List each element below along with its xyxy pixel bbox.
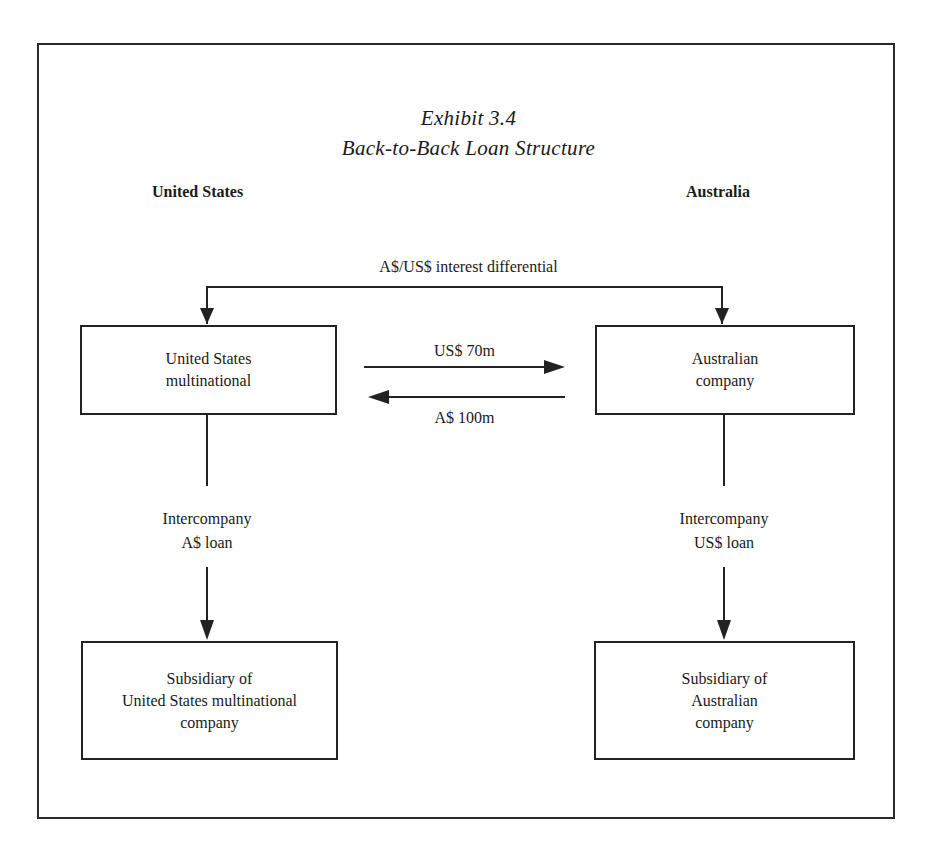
interest-differential-label: A$/US$ interest differential xyxy=(0,255,937,279)
flow-arrow-australia-to-us xyxy=(368,390,565,404)
box-us-multinational-line1: United States xyxy=(166,348,252,370)
box-us-subsidiary-line2: United States multinational xyxy=(122,690,297,712)
intercompany-a-loan-label: Intercompany A$ loan xyxy=(107,507,307,555)
box-us-subsidiary-line1: Subsidiary of xyxy=(122,668,297,690)
flow-label-a-100m: A$ 100m xyxy=(364,406,565,430)
box-australian-company: Australian company xyxy=(595,325,855,415)
intercompany-us-loan-line1: Intercompany xyxy=(624,507,824,531)
arrowhead-left-icon xyxy=(368,390,389,404)
box-australian-subsidiary-line2: Australian xyxy=(682,690,768,712)
box-australian-company-line2: company xyxy=(692,370,759,392)
box-us-multinational: United States multinational xyxy=(80,325,337,415)
box-australian-subsidiary-line3: company xyxy=(682,712,768,734)
intercompany-us-loan-label: Intercompany US$ loan xyxy=(624,507,824,555)
arrowhead-down-icon xyxy=(200,308,214,324)
intercompany-us-loan-line2: US$ loan xyxy=(624,531,824,555)
intercompany-a-loan-line2: A$ loan xyxy=(107,531,307,555)
box-us-subsidiary-line3: company xyxy=(122,712,297,734)
intercompany-a-loan-line1: Intercompany xyxy=(107,507,307,531)
flow-label-us-70m: US$ 70m xyxy=(364,339,565,363)
box-australian-subsidiary-line1: Subsidiary of xyxy=(682,668,768,690)
interest-differential-connector xyxy=(200,287,729,324)
box-us-multinational-line2: multinational xyxy=(166,370,252,392)
box-us-subsidiary: Subsidiary of United States multinationa… xyxy=(81,641,338,760)
box-australian-company-line1: Australian xyxy=(692,348,759,370)
arrowhead-down-icon xyxy=(200,620,214,640)
arrowhead-down-icon xyxy=(715,308,729,324)
arrowhead-down-icon xyxy=(717,620,731,640)
box-australian-subsidiary: Subsidiary of Australian company xyxy=(594,641,855,760)
